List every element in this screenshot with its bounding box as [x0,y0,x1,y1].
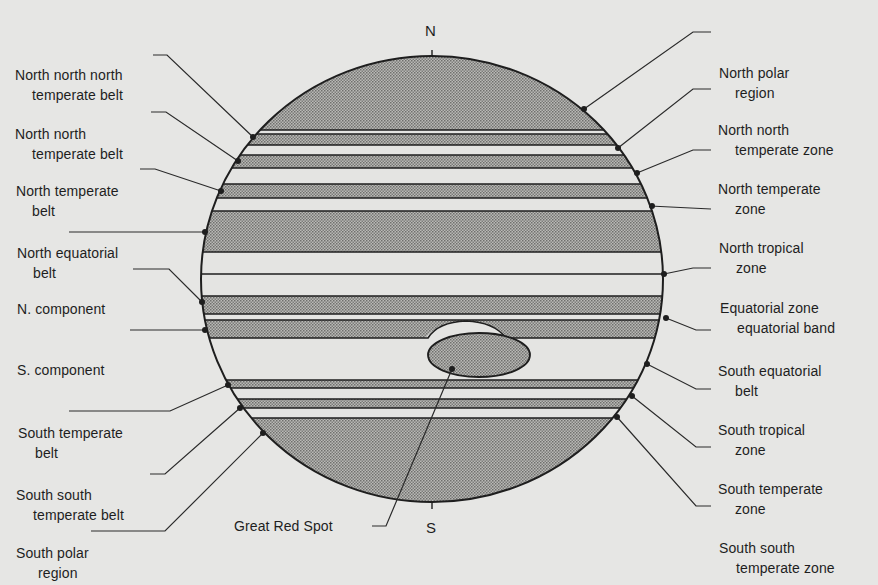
nnntb-band [190,134,680,145]
label-south-polar: South polarregion [16,503,89,585]
north-polar-region [190,50,680,130]
sstb-band [190,399,680,408]
great-red-spot [428,333,530,377]
north-pole-label: N [425,22,436,39]
ntb-band [190,184,680,198]
label-great-red-spot: Great Red Spot [234,516,333,536]
planet-disc [190,50,680,518]
stb-band [190,380,680,388]
label-sstz: South southtemperate zone [719,498,835,585]
neb-band [190,211,680,252]
south-pole-label: S [426,519,436,536]
nntb-band [190,155,680,168]
n-component-band [190,296,680,314]
